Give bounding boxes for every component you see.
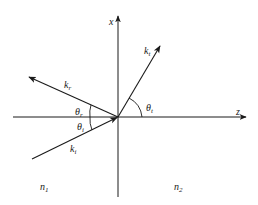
k-reflected-label: kr: [64, 79, 71, 92]
z-axis-label: z: [235, 106, 240, 117]
theta-transmitted-label: θt: [146, 102, 154, 115]
medium-1-label: n1: [40, 181, 49, 194]
medium-2-label: n2: [174, 181, 183, 194]
angle-arc-reflected: [90, 105, 91, 117]
refraction-diagram: x z kt kr ki θr θi θt n1 n2: [0, 0, 258, 205]
reflected-ray: [29, 77, 118, 117]
angle-arc-transmitted: [129, 98, 142, 117]
x-axis-label: x: [108, 16, 114, 27]
angle-arc-incident: [90, 117, 92, 130]
k-transmitted-label: kt: [144, 45, 151, 58]
k-incident-label: ki: [70, 143, 76, 156]
theta-incident-label: θi: [77, 121, 84, 134]
